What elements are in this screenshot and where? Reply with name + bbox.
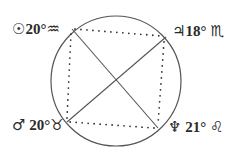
- jupiter-icon: ♃: [172, 22, 185, 40]
- opposition-line-sun-neptune: [72, 29, 158, 128]
- taurus-icon: ♉: [50, 116, 63, 134]
- sun-icon: ☉: [12, 20, 25, 38]
- label-sun-aquarius: ☉20°♒: [12, 22, 60, 37]
- degree-text: 21°: [185, 119, 206, 135]
- scorpio-icon: ♏: [210, 22, 223, 40]
- dotted-line-mars-sun: [67, 34, 71, 118]
- aquarius-icon: ♒: [46, 20, 59, 38]
- degree-text: 20°: [29, 117, 50, 133]
- mars-icon: ♂: [12, 116, 25, 134]
- neptune-icon: ♆: [168, 118, 181, 136]
- dotted-line-sun-jupiter: [75, 29, 162, 36]
- dotted-line-jupiter-neptune: [158, 42, 164, 124]
- label-jupiter-scorpio: ♃18° ♏: [172, 24, 224, 39]
- zodiac-circle: [51, 16, 181, 146]
- leo-icon: ♌: [210, 118, 223, 136]
- label-neptune-leo: ♆ 21° ♌: [168, 120, 223, 135]
- dotted-line-neptune-mars: [70, 122, 154, 128]
- degree-text: 20°: [25, 21, 46, 37]
- label-mars-taurus: ♂ 20°♉: [12, 118, 64, 133]
- opposition-line-jupiter-mars: [67, 37, 166, 122]
- degree-text: 18°: [185, 23, 206, 39]
